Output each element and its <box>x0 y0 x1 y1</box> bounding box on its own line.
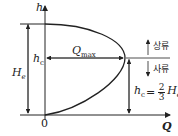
he-label: He <box>12 67 26 81</box>
origin-label: 0 <box>41 118 48 129</box>
q-axis-label: Q <box>162 121 172 132</box>
qmax-label: Qmax <box>72 45 96 59</box>
discharge-curve <box>45 24 125 115</box>
diagram-canvas <box>0 0 178 136</box>
h-axis-label: h <box>36 2 43 13</box>
upstream-label: 상류 <box>153 42 169 51</box>
downstream-label: 사류 <box>153 65 169 74</box>
hc-formula: hc = 2 3 He <box>134 83 178 102</box>
hc-left-label: hc <box>33 53 44 67</box>
